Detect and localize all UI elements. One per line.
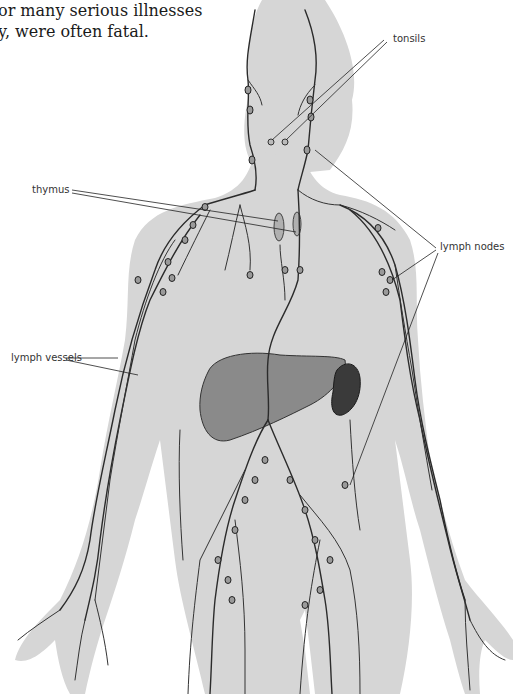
tonsil-left bbox=[268, 139, 274, 145]
body-silhouette bbox=[15, 0, 513, 694]
tonsil-right bbox=[282, 139, 288, 145]
label-lymph-nodes: lymph nodes bbox=[440, 241, 504, 252]
label-thymus: thymus bbox=[32, 184, 69, 195]
label-lymph-vessels: lymph vessels bbox=[11, 352, 82, 363]
thymus bbox=[274, 213, 284, 241]
lymphatic-system-illustration bbox=[0, 0, 513, 694]
label-tonsils: tonsils bbox=[393, 33, 425, 44]
